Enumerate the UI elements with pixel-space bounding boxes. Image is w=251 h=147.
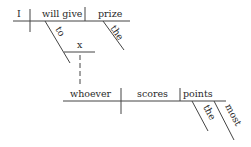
preposition: to [53, 24, 67, 38]
object-modifier: the [108, 23, 126, 42]
sentence-diagram: I will give prize the to x whoever score… [0, 0, 251, 147]
prepositional-object: x [77, 39, 83, 50]
sub-verb: scores [137, 88, 168, 99]
sub-subject: whoever [70, 88, 112, 99]
sub-object: points [183, 88, 213, 99]
main-subject: I [17, 8, 21, 19]
main-verb: will give [42, 8, 83, 19]
sub-modifier-2: most [223, 102, 244, 128]
main-object: prize [98, 8, 123, 19]
